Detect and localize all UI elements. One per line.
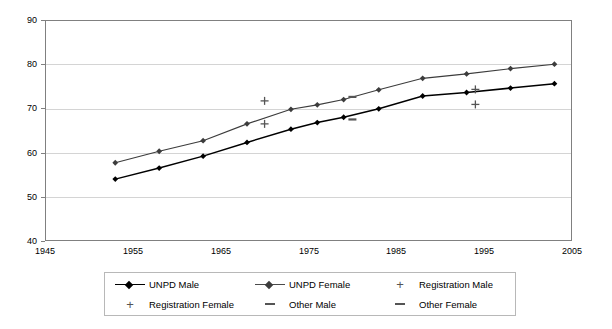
x-axis-tick-label: 1955	[110, 247, 156, 256]
y-axis-tick-label: 90	[5, 16, 37, 25]
legend-item-unpd-male[interactable]: UNPD Male	[113, 274, 199, 296]
x-axis-tick-label: 1945	[22, 247, 68, 256]
plus-marker-icon: +	[383, 274, 417, 296]
legend-item-registration-female[interactable]: + Registration Female	[113, 294, 234, 316]
y-axis-tick-label: 70	[5, 104, 37, 113]
y-axis-tick-label: 50	[5, 193, 37, 202]
legend-item-label: Registration Female	[147, 300, 234, 310]
plot-area	[45, 20, 572, 241]
dash-marker-icon	[253, 294, 287, 316]
y-axis-tick-label: 80	[5, 60, 37, 69]
x-axis-tick-label: 2005	[549, 247, 595, 256]
dash-marker-icon	[383, 294, 417, 316]
x-axis-tick-label: 1985	[373, 247, 419, 256]
chart-legend: UNPD Male UNPD Female + Registration Mal…	[104, 272, 516, 316]
gridline-70	[46, 109, 571, 110]
legend-row-2: + Registration Female Other Male Other F…	[105, 294, 515, 316]
legend-row-1: UNPD Male UNPD Female + Registration Mal…	[105, 274, 515, 296]
gridline-60	[46, 153, 571, 154]
legend-item-label: UNPD Male	[147, 280, 199, 290]
gridline-50	[46, 197, 571, 198]
legend-item-registration-male[interactable]: + Registration Male	[383, 274, 493, 296]
gridline-80	[46, 64, 571, 65]
legend-item-label: Other Male	[287, 300, 336, 310]
legend-item-unpd-female[interactable]: UNPD Female	[253, 274, 350, 296]
line-diamond-icon	[253, 274, 287, 296]
plus-marker-icon: +	[113, 294, 147, 316]
y-axis-tick-label: 60	[5, 149, 37, 158]
x-axis-tick-label: 1975	[286, 247, 332, 256]
life-expectancy-line-chart: 90 80 70 60 50 40 1945 1955 1965 1975 19…	[0, 0, 612, 329]
y-axis-tick-label: 40	[5, 237, 37, 246]
x-axis-tick-label: 1995	[461, 247, 507, 256]
x-axis-tick-label: 1965	[198, 247, 244, 256]
legend-item-other-female[interactable]: Other Female	[383, 294, 477, 316]
y-axis-tick-mark	[41, 241, 45, 242]
legend-item-label: UNPD Female	[287, 280, 350, 290]
legend-item-label: Other Female	[417, 300, 477, 310]
legend-item-other-male[interactable]: Other Male	[253, 294, 336, 316]
line-diamond-icon	[113, 274, 147, 296]
legend-item-label: Registration Male	[417, 280, 493, 290]
